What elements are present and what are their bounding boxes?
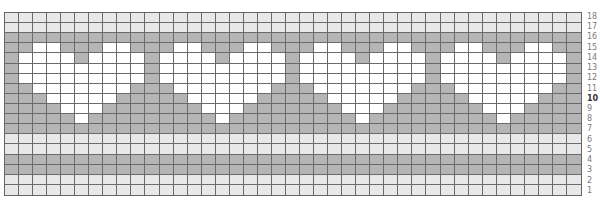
chart-cell	[553, 124, 567, 134]
chart-cell	[286, 94, 300, 104]
chart-cell	[174, 175, 188, 185]
chart-cell	[47, 64, 61, 74]
chart-cell	[216, 43, 230, 53]
chart-cell	[469, 124, 483, 134]
chart-cell	[398, 144, 412, 154]
chart-cell	[244, 134, 258, 144]
chart-cell	[370, 134, 384, 144]
chart-cell	[469, 23, 483, 33]
chart-cell	[412, 94, 426, 104]
chart-cell	[117, 43, 131, 53]
chart-cell	[5, 104, 19, 114]
row-label-5: 5	[587, 145, 592, 155]
chart-cell	[216, 165, 230, 175]
chart-cell	[398, 155, 412, 165]
chart-cell	[244, 165, 258, 175]
chart-cell	[455, 165, 469, 175]
chart-cell	[300, 23, 314, 33]
chart-cell	[511, 175, 525, 185]
chart-cell	[483, 74, 497, 84]
chart-cell	[202, 84, 216, 94]
chart-cell	[426, 23, 440, 33]
chart-cell	[455, 23, 469, 33]
chart-cell	[441, 104, 455, 114]
chart-cell	[328, 94, 342, 104]
chart-cell	[19, 43, 33, 53]
chart-cell	[188, 114, 202, 124]
chart-cell	[412, 114, 426, 124]
chart-cell	[370, 94, 384, 104]
chart-cell	[131, 84, 145, 94]
chart-cell	[525, 185, 539, 195]
chart-cell	[483, 144, 497, 154]
chart-cell	[19, 53, 33, 63]
chart-cell	[511, 144, 525, 154]
chart-cell	[553, 53, 567, 63]
chart-cell	[258, 124, 272, 134]
chart-cell	[244, 53, 258, 63]
chart-cell	[511, 33, 525, 43]
chart-cell	[272, 114, 286, 124]
chart-cell	[370, 114, 384, 124]
chart-cell	[398, 23, 412, 33]
chart-cell	[33, 185, 47, 195]
chart-cell	[342, 33, 356, 43]
chart-cell	[412, 13, 426, 23]
chart-cell	[356, 74, 370, 84]
chart-cell	[300, 124, 314, 134]
chart-cell	[160, 124, 174, 134]
chart-cell	[328, 124, 342, 134]
chart-cell	[5, 53, 19, 63]
chart-cell	[244, 33, 258, 43]
chart-cell	[300, 155, 314, 165]
chart-cell	[314, 124, 328, 134]
chart-cell	[117, 53, 131, 63]
chart-cell	[539, 84, 553, 94]
chart-cell	[328, 33, 342, 43]
chart-cell	[47, 94, 61, 104]
chart-cell	[145, 185, 159, 195]
chart-cell	[553, 23, 567, 33]
chart-cell	[356, 13, 370, 23]
chart-cell	[61, 33, 75, 43]
chart-cell	[188, 155, 202, 165]
chart-cell	[47, 43, 61, 53]
chart-cell	[314, 33, 328, 43]
chart-cell	[75, 43, 89, 53]
chart-cell	[19, 165, 33, 175]
chart-cell	[511, 13, 525, 23]
chart-cell	[525, 84, 539, 94]
chart-cell	[483, 94, 497, 104]
chart-cell	[216, 134, 230, 144]
chart-cell	[33, 13, 47, 23]
chart-cell	[412, 23, 426, 33]
chart-cell	[202, 23, 216, 33]
chart-cell	[5, 23, 19, 33]
chart-cell	[511, 64, 525, 74]
chart-cell	[145, 134, 159, 144]
chart-cell	[412, 165, 426, 175]
chart-cell	[455, 94, 469, 104]
chart-cell	[75, 53, 89, 63]
chart-cell	[47, 104, 61, 114]
chart-cell	[370, 155, 384, 165]
chart-cell	[342, 64, 356, 74]
chart-cell	[61, 185, 75, 195]
chart-cell	[567, 64, 581, 74]
chart-cell	[103, 64, 117, 74]
chart-cell	[483, 124, 497, 134]
chart-cell	[188, 104, 202, 114]
chart-cell	[441, 23, 455, 33]
chart-cell	[174, 124, 188, 134]
chart-cell	[314, 165, 328, 175]
chart-cell	[47, 155, 61, 165]
chart-cell	[89, 84, 103, 94]
chart-cell	[33, 94, 47, 104]
chart-cell	[5, 185, 19, 195]
chart-cell	[244, 104, 258, 114]
chart-cell	[272, 144, 286, 154]
chart-cell	[455, 53, 469, 63]
chart-cell	[483, 155, 497, 165]
chart-cell	[356, 23, 370, 33]
chart-cell	[5, 144, 19, 154]
